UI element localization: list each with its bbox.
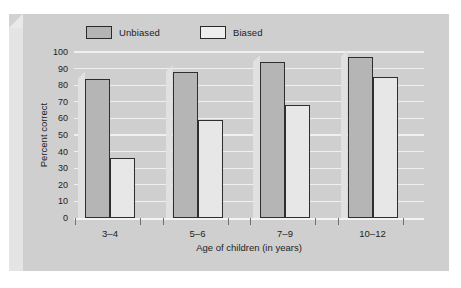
x-axis-tick — [250, 218, 251, 225]
bar-3d-shadow — [78, 72, 85, 218]
y-axis-tick-label: 80 — [58, 80, 68, 90]
bar-unbiased-1 — [173, 72, 198, 218]
bar-3d-shadow — [166, 65, 173, 218]
x-axis-tick — [403, 218, 404, 225]
legend-swatch-icon-biased — [200, 26, 226, 39]
y-axis-tick-label: 40 — [58, 147, 68, 157]
x-axis-tick — [315, 218, 316, 225]
x-axis-line — [74, 218, 424, 220]
legend-label-unbiased: Unbiased — [119, 27, 160, 38]
y-axis-tick-label: 10 — [58, 196, 68, 206]
plot-area: 01020304050607080901003–45–67–910–12 — [74, 52, 424, 218]
x-axis-tick — [163, 218, 164, 225]
bar-unbiased-0 — [85, 79, 110, 218]
y-axis-tick-label: 90 — [58, 64, 68, 74]
gridline — [74, 51, 424, 52]
y-axis-tick-label: 50 — [58, 130, 68, 140]
x-axis-category-label: 5–6 — [190, 228, 206, 239]
x-axis-title: Age of children (in years) — [74, 242, 424, 253]
y-axis-tick-label: 0 — [63, 213, 68, 223]
bar-biased-3 — [373, 77, 398, 218]
y-axis-title: Percent correct — [38, 52, 50, 218]
x-axis-tick — [75, 218, 76, 225]
chart-frame-left-bevel — [9, 14, 23, 271]
chart-legend: Unbiased Biased — [86, 25, 263, 39]
y-axis-tick-label: 60 — [58, 113, 68, 123]
x-axis-tick — [228, 218, 229, 225]
x-axis-tick — [338, 218, 339, 225]
legend-item-biased: Biased — [200, 26, 263, 39]
bar-3d-shadow — [341, 50, 348, 218]
legend-swatch-icon-unbiased — [86, 26, 112, 39]
y-axis-tick-label: 20 — [58, 180, 68, 190]
legend-label-biased: Biased — [233, 27, 263, 38]
bar-biased-1 — [198, 120, 223, 218]
x-axis-category-label: 3–4 — [102, 228, 118, 239]
bar-chart-figure: Unbiased Biased Percent correct 01020304… — [0, 0, 461, 288]
bar-biased-0 — [110, 158, 135, 218]
bar-unbiased-2 — [260, 62, 285, 218]
x-axis-category-label: 7–9 — [277, 228, 293, 239]
y-axis-tick-label: 100 — [53, 47, 68, 57]
legend-item-unbiased: Unbiased — [86, 26, 160, 39]
y-axis-tick-label: 70 — [58, 97, 68, 107]
y-axis-tick-label: 30 — [58, 163, 68, 173]
x-axis-category-label: 10–12 — [359, 228, 385, 239]
bar-biased-2 — [285, 105, 310, 218]
x-axis-tick — [140, 218, 141, 225]
bar-3d-shadow — [253, 55, 260, 218]
bar-unbiased-3 — [348, 57, 373, 218]
